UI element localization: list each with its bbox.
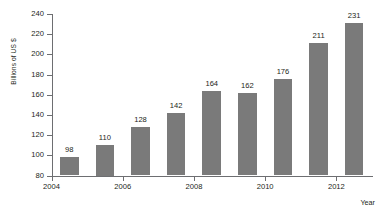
bar-value-label: 98 <box>54 146 84 154</box>
bar-value-label: 231 <box>339 12 369 20</box>
y-axis-tick-label: 200 <box>20 50 44 58</box>
y-axis-tick-label: 100 <box>20 151 44 159</box>
bar <box>202 91 221 176</box>
x-axis-tick-label: 2008 <box>174 183 214 191</box>
x-axis-tick <box>52 176 53 181</box>
x-axis-tick <box>336 176 337 181</box>
x-axis-tick <box>123 176 124 181</box>
y-axis-tick-label: 120 <box>20 131 44 139</box>
y-axis-tick <box>47 14 52 15</box>
y-axis-tick-label: 220 <box>20 30 44 38</box>
bar-value-label: 110 <box>90 134 120 142</box>
x-axis-tick-label: 2012 <box>316 183 356 191</box>
y-axis-tick-label: 80 <box>20 172 44 180</box>
bar <box>238 93 257 176</box>
y-axis-tick-label: 140 <box>20 111 44 119</box>
bar-value-label: 162 <box>232 82 262 90</box>
bar-value-label: 128 <box>126 116 156 124</box>
x-axis-tick <box>265 176 266 181</box>
bar <box>309 43 328 175</box>
y-axis-tick <box>47 54 52 55</box>
y-axis-tick <box>47 115 52 116</box>
x-axis-tick <box>194 176 195 181</box>
y-axis-title: Billions of US $ <box>10 24 17 100</box>
bar-chart: Billions of US $ 24022020018016014012010… <box>0 0 387 212</box>
x-axis-title: Year <box>360 198 375 207</box>
bar <box>274 79 293 176</box>
y-axis-tick <box>47 34 52 35</box>
bar-value-label: 211 <box>304 32 334 40</box>
y-axis-tick-label: 160 <box>20 91 44 99</box>
bar <box>96 145 115 175</box>
y-axis-tick <box>47 95 52 96</box>
bar <box>345 23 364 175</box>
bar-value-label: 164 <box>197 80 227 88</box>
x-axis-line <box>52 176 373 177</box>
y-axis-tick <box>47 155 52 156</box>
bar <box>131 127 150 175</box>
y-axis-tick-label: 180 <box>20 71 44 79</box>
x-axis-tick-label: 2004 <box>32 183 72 191</box>
bar-value-label: 142 <box>161 102 191 110</box>
y-axis-tick-label: 240 <box>20 10 44 18</box>
bar-value-label: 176 <box>268 68 298 76</box>
x-axis-tick-label: 2010 <box>245 183 285 191</box>
x-axis-tick-label: 2006 <box>103 183 143 191</box>
bar <box>167 113 186 176</box>
bar <box>60 157 79 175</box>
y-axis-tick <box>47 135 52 136</box>
y-axis-tick <box>47 75 52 76</box>
